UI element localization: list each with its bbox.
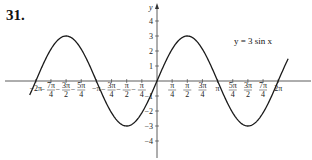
svg-text:4: 4 <box>49 90 53 99</box>
svg-text:−: − <box>116 85 121 94</box>
svg-text:4: 4 <box>231 90 235 99</box>
svg-text:3π: 3π <box>108 81 116 90</box>
svg-text:4: 4 <box>140 90 144 99</box>
svg-text:3π: 3π <box>198 81 206 90</box>
svg-text:4: 4 <box>79 90 83 99</box>
svg-text:3: 3 <box>149 32 153 41</box>
svg-text:2: 2 <box>149 47 153 56</box>
svg-text:2: 2 <box>185 90 189 99</box>
svg-text:1: 1 <box>149 62 153 71</box>
svg-text:−: − <box>71 85 76 94</box>
svg-text:−2: −2 <box>144 107 153 116</box>
svg-text:3π: 3π <box>244 81 252 90</box>
svg-text:−3: −3 <box>144 122 153 131</box>
svg-text:4: 4 <box>170 90 174 99</box>
svg-text:−: − <box>56 85 61 94</box>
svg-text:π: π <box>140 81 144 90</box>
svg-text:5π: 5π <box>229 81 237 90</box>
svg-text:4: 4 <box>149 17 153 26</box>
y-axis-arrow-icon <box>155 3 159 9</box>
problem-number: 31. <box>6 7 25 23</box>
svg-text:4: 4 <box>110 90 114 99</box>
svg-text:π: π <box>185 81 189 90</box>
svg-text:3π: 3π <box>62 81 70 90</box>
equation-label: y = 3 sin x <box>234 36 273 46</box>
svg-text:4: 4 <box>261 90 265 99</box>
svg-text:2: 2 <box>125 90 129 99</box>
svg-text:7π: 7π <box>47 81 55 90</box>
svg-text:7π: 7π <box>259 81 267 90</box>
svg-text:−: − <box>131 85 136 94</box>
y-axis-label: y <box>148 3 153 12</box>
svg-text:5π: 5π <box>77 81 85 90</box>
svg-text:4: 4 <box>200 90 204 99</box>
svg-text:π: π <box>125 81 129 90</box>
svg-text:−4: −4 <box>144 137 153 146</box>
svg-text:π: π <box>170 81 174 90</box>
svg-text:2: 2 <box>246 90 250 99</box>
svg-text:2: 2 <box>64 90 68 99</box>
svg-text:−: − <box>40 85 45 94</box>
sine-graph: 31. y −2π7π4−3π2−5π4−−π3π4−π2−π4−π4π23π4… <box>0 0 312 160</box>
